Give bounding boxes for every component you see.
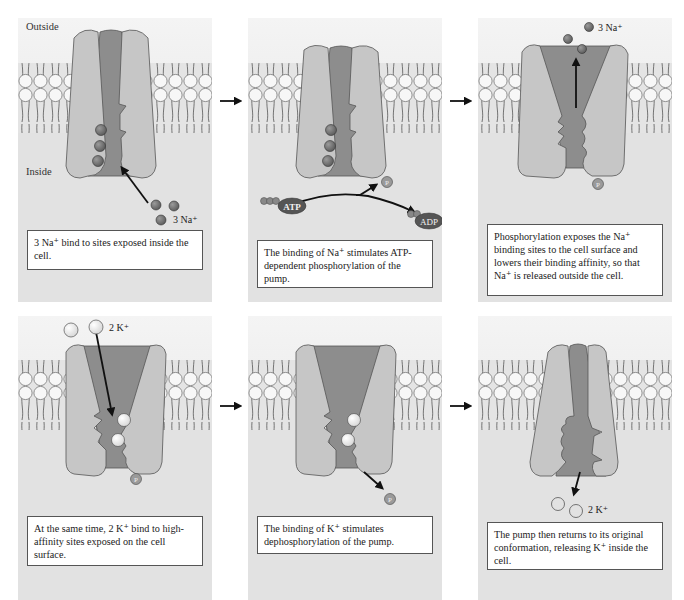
potassium-ion	[342, 434, 355, 447]
arrow-2-to-3	[450, 96, 472, 106]
sodium-ion	[578, 45, 587, 54]
inside-label: Inside	[26, 166, 52, 177]
phosphate-label: P	[385, 179, 389, 187]
sodium-ion	[169, 201, 179, 211]
panel-step-3: P 3 Na⁺ Phosphorylation exposes the Na⁺ …	[478, 18, 672, 302]
outside-label: Outside	[26, 21, 59, 32]
sodium-ion	[151, 200, 161, 210]
pump-subunit-right	[119, 30, 156, 178]
potassium-ion	[64, 323, 78, 337]
arrow-1-to-2	[220, 96, 242, 106]
ion-label: 3 Na⁺	[598, 22, 622, 33]
sodium-ion	[95, 141, 106, 152]
phosphate-label: P	[134, 476, 138, 484]
potassium-ion	[570, 505, 583, 518]
panel-step-6: 2 K⁺ The pump then returns to its origin…	[478, 316, 672, 600]
sodium-ion	[325, 141, 336, 152]
step-caption: Phosphorylation exposes the Na⁺ binding …	[487, 224, 663, 296]
atp-label: ATP	[283, 202, 301, 212]
potassium-ion	[552, 498, 565, 511]
ion-label: 2 K⁺	[588, 504, 608, 515]
step-caption: At the same time, 2 K⁺ bind to high-affi…	[27, 516, 203, 566]
ion-label: 2 K⁺	[109, 322, 129, 333]
potassium-ion	[118, 414, 131, 427]
phosphate-label: P	[596, 181, 600, 189]
sodium-ion	[326, 125, 337, 136]
reaction-arrow	[292, 194, 414, 212]
sodium-ion	[156, 215, 166, 225]
sodium-ion	[96, 125, 107, 136]
step-caption: The binding of Na⁺ stimulates ATP-depend…	[257, 240, 433, 288]
adp-label: ADP	[420, 217, 438, 227]
pump-illustration: P	[248, 316, 442, 600]
sodium-ion	[585, 23, 594, 32]
sodium-ion	[323, 156, 334, 167]
potassium-ion	[348, 414, 361, 427]
panel-step-4: P 2 K⁺ At the same time, 2 K⁺ bind to hi…	[18, 316, 212, 600]
arrow-4-to-5	[220, 401, 242, 411]
step-caption: 3 Na⁺ bind to sites exposed inside the c…	[27, 230, 203, 270]
potassium-ion	[89, 320, 103, 334]
phosphorylation-arrow	[356, 185, 376, 195]
ion-label: 3 Na⁺	[173, 214, 197, 225]
panel-step-2: P ATP ADP The binding of Na⁺ stimulates …	[248, 18, 442, 302]
arrow-5-to-6	[450, 401, 472, 411]
panel-step-5: P The binding of K⁺ stimulates dephospho…	[248, 316, 442, 600]
step-caption: The pump then returns to its original co…	[487, 522, 663, 570]
potassium-ion	[112, 434, 125, 447]
phosphate-label: P	[388, 496, 392, 504]
sodium-ion	[93, 156, 104, 167]
panel-step-1: Outside Inside 3 Na⁺ 3 Na⁺ bind to sites…	[18, 18, 212, 302]
sodium-ion	[564, 35, 573, 44]
step-caption: The binding of K⁺ stimulates dephosphory…	[257, 516, 433, 554]
